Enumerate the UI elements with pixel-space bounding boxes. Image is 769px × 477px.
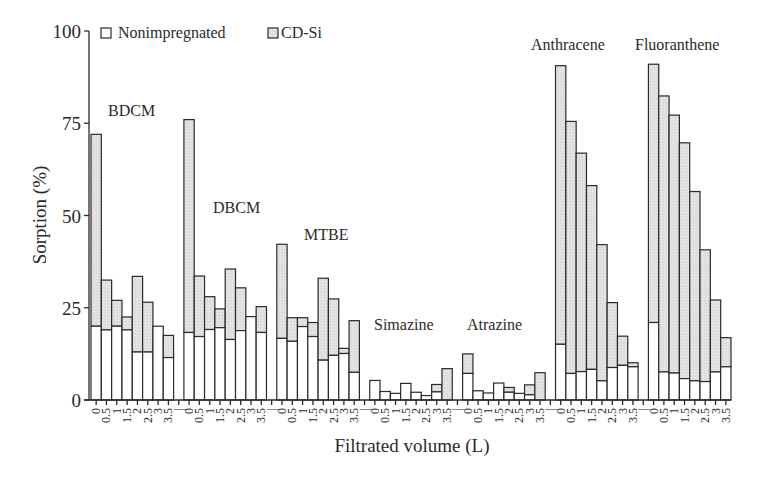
bar-nonimpregnated bbox=[101, 330, 111, 400]
group-label-dbcm: DBCM bbox=[213, 199, 260, 216]
bar-nonimpregnated bbox=[122, 330, 132, 400]
bar-cd-si bbox=[328, 299, 338, 355]
bar-nonimpregnated bbox=[669, 373, 679, 400]
bar-nonimpregnated bbox=[710, 372, 720, 400]
bar-nonimpregnated bbox=[432, 392, 442, 400]
bar-cd-si bbox=[607, 303, 617, 368]
group-label-fluoranthene: Fluoranthene bbox=[635, 36, 719, 53]
group-label-bdcm: BDCM bbox=[108, 102, 155, 119]
group-label-anthracene: Anthracene bbox=[531, 36, 605, 53]
bar-nonimpregnated bbox=[349, 372, 359, 400]
bar-nonimpregnated bbox=[566, 373, 576, 400]
bar-nonimpregnated bbox=[225, 339, 235, 400]
bar-nonimpregnated bbox=[287, 341, 297, 400]
bar-nonimpregnated bbox=[380, 392, 390, 400]
bar-cd-si bbox=[566, 121, 576, 373]
bar-cd-si bbox=[628, 363, 638, 367]
bar-nonimpregnated bbox=[483, 393, 493, 400]
bar-cd-si bbox=[236, 288, 246, 331]
bar-nonimpregnated bbox=[236, 331, 246, 400]
bar-nonimpregnated bbox=[586, 369, 596, 400]
bar-cd-si bbox=[287, 318, 297, 342]
bar-cd-si bbox=[205, 297, 215, 330]
legend-label-nonimpregnated: Nonimpregnated bbox=[118, 24, 226, 42]
bar-cd-si bbox=[442, 369, 452, 400]
bar-cd-si bbox=[679, 143, 689, 379]
bar-nonimpregnated bbox=[308, 337, 318, 400]
bar-nonimpregnated bbox=[617, 365, 627, 400]
bar-group-dbcm bbox=[184, 120, 267, 400]
bar-nonimpregnated bbox=[473, 391, 483, 400]
bar-nonimpregnated bbox=[112, 326, 122, 400]
bar-cd-si bbox=[339, 348, 349, 353]
bar-cd-si bbox=[101, 280, 111, 330]
bar-cd-si bbox=[432, 385, 442, 392]
bar-nonimpregnated bbox=[163, 358, 173, 400]
bar-group-anthracene bbox=[556, 66, 639, 400]
x-tick-label: 3.5 bbox=[719, 408, 733, 423]
bar-cd-si bbox=[617, 336, 627, 365]
bar-cd-si bbox=[112, 300, 122, 326]
bar-nonimpregnated bbox=[679, 379, 689, 400]
bar-cd-si bbox=[659, 96, 669, 372]
bar-cd-si bbox=[297, 318, 307, 327]
bar-nonimpregnated bbox=[411, 392, 421, 400]
bar-cd-si bbox=[132, 276, 142, 352]
y-tick-label: 50 bbox=[62, 206, 81, 227]
bar-nonimpregnated bbox=[194, 337, 204, 400]
y-axis-label: Sorption (%) bbox=[29, 166, 51, 265]
bar-cd-si bbox=[349, 321, 359, 373]
bars bbox=[91, 64, 731, 400]
bar-nonimpregnated bbox=[421, 396, 431, 400]
bar-nonimpregnated bbox=[339, 354, 349, 400]
legend-swatch-cd-si bbox=[268, 28, 278, 38]
group-label-atrazine: Atrazine bbox=[467, 316, 522, 333]
bar-nonimpregnated bbox=[607, 368, 617, 400]
bar-cd-si bbox=[91, 134, 101, 326]
bar-cd-si bbox=[194, 276, 204, 337]
bar-nonimpregnated bbox=[205, 330, 215, 400]
bar-cd-si bbox=[318, 278, 328, 360]
bar-cd-si bbox=[504, 387, 514, 392]
y-axis: 0255075100 bbox=[53, 21, 90, 411]
bar-cd-si bbox=[163, 335, 173, 357]
bar-cd-si bbox=[669, 115, 679, 373]
bar-nonimpregnated bbox=[390, 393, 400, 400]
bar-nonimpregnated bbox=[556, 344, 566, 400]
bar-group-atrazine bbox=[463, 354, 546, 400]
group-label-mtbe: MTBE bbox=[304, 226, 348, 243]
bar-nonimpregnated bbox=[153, 326, 163, 400]
bar-nonimpregnated bbox=[184, 332, 194, 400]
legend: Nonimpregnated CD-Si bbox=[101, 24, 322, 42]
bar-cd-si bbox=[122, 317, 132, 330]
bar-cd-si bbox=[308, 323, 318, 337]
bar-nonimpregnated bbox=[318, 360, 328, 400]
bar-cd-si bbox=[648, 64, 658, 322]
bar-nonimpregnated bbox=[648, 323, 658, 400]
legend-swatch-nonimpregnated bbox=[101, 28, 111, 38]
bar-group-mtbe bbox=[277, 244, 360, 400]
bar-cd-si bbox=[586, 186, 596, 370]
bar-nonimpregnated bbox=[721, 367, 731, 400]
bar-nonimpregnated bbox=[143, 352, 153, 400]
bar-nonimpregnated bbox=[576, 372, 586, 400]
x-axis: 00.511.522.533.5|00.511.522.533.5|00.511… bbox=[84, 400, 733, 423]
bar-nonimpregnated bbox=[628, 367, 638, 400]
bar-nonimpregnated bbox=[659, 372, 669, 400]
bar-nonimpregnated bbox=[401, 383, 411, 400]
bar-cd-si bbox=[597, 245, 607, 381]
bar-group-bdcm bbox=[91, 134, 174, 400]
bar-cd-si bbox=[556, 66, 566, 345]
y-tick-label: 25 bbox=[62, 298, 81, 319]
bar-cd-si bbox=[525, 385, 535, 395]
x-axis-label: Filtrated volume (L) bbox=[334, 435, 489, 457]
bar-cd-si bbox=[535, 373, 545, 400]
bar-cd-si bbox=[690, 192, 700, 381]
y-tick-label: 0 bbox=[72, 390, 82, 411]
legend-label-cd-si: CD-Si bbox=[281, 24, 322, 41]
bar-nonimpregnated bbox=[690, 381, 700, 400]
bar-cd-si bbox=[710, 300, 720, 372]
bar-cd-si bbox=[225, 269, 235, 339]
stacked-bar-chart: Sorption (%) Filtrated volume (L) Nonimp… bbox=[0, 0, 769, 477]
bar-cd-si bbox=[576, 153, 586, 371]
